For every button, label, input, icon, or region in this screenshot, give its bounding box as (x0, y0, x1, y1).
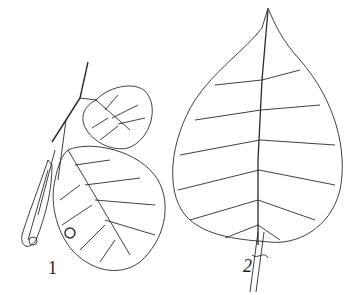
figure-1-twig (22, 62, 165, 271)
figure-2-leaf (173, 8, 343, 292)
leaf-drawings (0, 0, 352, 295)
botanical-illustration: 1 2 (0, 0, 352, 295)
figure-label-1: 1 (48, 258, 57, 279)
figure-label-2: 2 (243, 256, 252, 277)
